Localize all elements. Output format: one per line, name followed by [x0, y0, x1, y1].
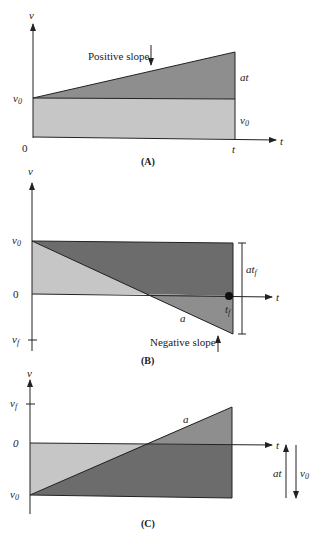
- panel-b: v t v0 0 vf tf a atf Negative slope (B): [12, 165, 280, 367]
- panel-c-v0-label: v0: [10, 488, 19, 502]
- panel-b-y-label: v: [28, 165, 33, 177]
- panel-b-zero-label: 0: [13, 288, 19, 300]
- panel-c-caption: (C): [141, 518, 155, 530]
- panel-a-at-label: at: [240, 71, 250, 83]
- panel-c-slope-label: a: [183, 413, 189, 425]
- panel-b-v0-label: v0: [12, 234, 21, 248]
- panel-a-v0-region-label: v0: [240, 114, 249, 128]
- panel-a-y-label: v: [29, 9, 34, 21]
- panel-b-tf-point: [225, 292, 233, 300]
- panel-c: v t vf 0 v0 a at v0 (C): [10, 367, 309, 530]
- panel-b-x-label: t: [276, 291, 280, 303]
- velocity-time-diagrams: v t 0 t v0 at v0 Positive slope (A) v t …: [0, 0, 325, 545]
- panel-a-origin-label: 0: [22, 142, 28, 154]
- panel-c-y-label: v: [27, 367, 32, 379]
- panel-a: v t 0 t v0 at v0 Positive slope (A): [13, 9, 284, 168]
- panel-c-v0-arrow-label: v0: [300, 467, 309, 481]
- panel-b-slope-label: a: [180, 312, 186, 324]
- panel-c-x-label: t: [276, 439, 280, 451]
- panel-c-zero-label: 0: [13, 437, 19, 449]
- panel-b-vf-label: vf: [12, 333, 21, 347]
- panel-a-annotation: Positive slope: [88, 50, 150, 62]
- panel-b-caption: (B): [141, 355, 154, 367]
- panel-a-lower-rect: [33, 98, 235, 139]
- panel-c-vf-label: vf: [10, 397, 19, 411]
- panel-a-x-label: t: [280, 135, 284, 147]
- panel-c-at-label: at: [273, 467, 283, 479]
- panel-b-bracket-label: atf: [246, 263, 259, 277]
- panel-b-annotation: Negative slope: [150, 336, 216, 348]
- panel-a-v0-label: v0: [13, 92, 22, 106]
- panel-a-caption: (A): [141, 156, 155, 168]
- panel-a-t-tick: t: [232, 143, 236, 155]
